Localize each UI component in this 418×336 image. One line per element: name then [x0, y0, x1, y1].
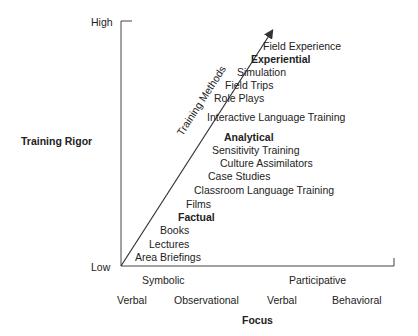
- x-subgroup-label: Verbal: [117, 294, 147, 306]
- method-category: Factual: [178, 211, 215, 223]
- method-item: Area Briefings: [135, 251, 201, 263]
- method-item: Role Plays: [214, 92, 264, 104]
- y-axis-title: Training Rigor: [21, 135, 92, 147]
- method-item: Classroom Language Training: [194, 184, 334, 196]
- method-category: Experiential: [251, 53, 311, 65]
- x-subgroup-label: Verbal: [267, 294, 297, 306]
- x-subgroup-label: Behavioral: [332, 294, 382, 306]
- method-item: Books: [160, 224, 189, 236]
- method-item: Culture Assimilators: [220, 157, 313, 169]
- method-item: Case Studies: [208, 170, 270, 182]
- method-item: Field Experience: [263, 40, 341, 52]
- method-item: Field Trips: [225, 79, 273, 91]
- axes-graphic: [0, 0, 418, 336]
- method-item: Interactive Language Training: [207, 111, 345, 123]
- x-axis-title: Focus: [242, 314, 273, 326]
- x-group-label: Participative: [289, 274, 346, 286]
- method-item: Simulation: [237, 66, 286, 78]
- method-category: Analytical: [224, 131, 274, 143]
- y-axis-high-label: High: [91, 16, 113, 28]
- x-group-label: Symbolic: [142, 274, 185, 286]
- method-item: Films: [186, 198, 211, 210]
- method-item: Lectures: [149, 238, 189, 250]
- method-item: Sensitivity Training: [212, 144, 300, 156]
- y-axis-low-label: Low: [91, 261, 110, 273]
- x-subgroup-label: Observational: [174, 294, 239, 306]
